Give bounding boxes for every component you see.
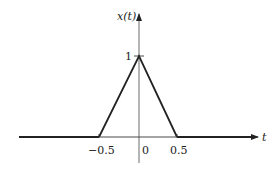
x-axis-label: t	[262, 131, 267, 144]
x-tick-label-neg: −0.5	[88, 144, 115, 157]
signal-triangle	[99, 56, 177, 137]
triangle-pulse-chart: x(t) t 1 −0.5 0 0.5	[0, 0, 277, 171]
y-tick-label-1: 1	[125, 50, 132, 63]
y-axis-label: x(t)	[117, 10, 136, 23]
x-tick-label-pos: 0.5	[170, 144, 188, 157]
x-tick-label-zero: 0	[142, 144, 149, 157]
